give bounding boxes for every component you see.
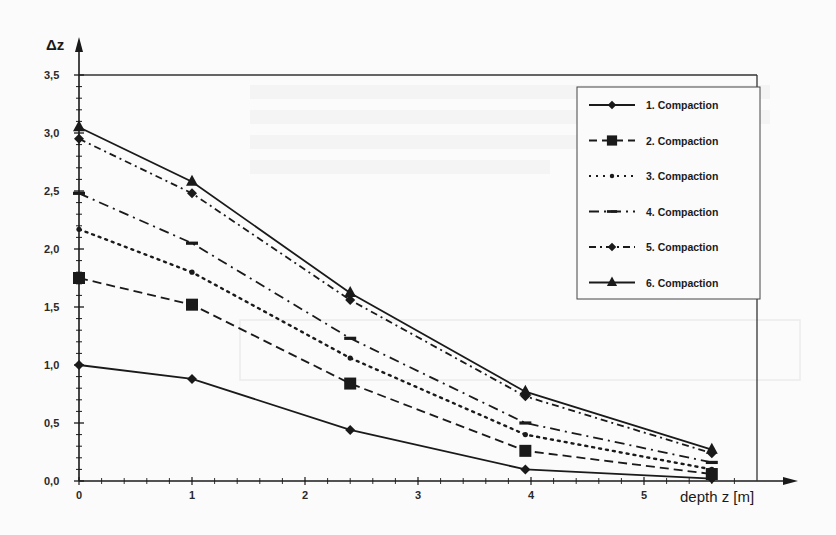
y-tick-label: 3,0 bbox=[44, 127, 59, 139]
y-tick-label: 0,5 bbox=[44, 417, 59, 429]
legend: 1. Compaction2. Compaction3. Compaction4… bbox=[577, 87, 760, 299]
y-axis-arrow-icon bbox=[75, 37, 83, 52]
x-tick-label: 0 bbox=[76, 489, 82, 501]
x-axis-arrow-icon bbox=[783, 477, 798, 485]
legend-label: 5. Compaction bbox=[646, 241, 718, 253]
x-tick-label: 3 bbox=[415, 489, 421, 501]
y-tick-label: 1,5 bbox=[44, 301, 59, 313]
legend-label: 4. Compaction bbox=[646, 206, 718, 218]
compaction-depth-chart: 0,00,51,01,52,02,53,03,5 012345 Δz depth… bbox=[0, 0, 836, 535]
x-tick-label: 2 bbox=[302, 489, 308, 501]
x-tick-label: 4 bbox=[528, 489, 535, 501]
y-axis-label: Δz bbox=[46, 36, 64, 53]
y-tick-label: 2,0 bbox=[44, 243, 59, 255]
legend-label: 6. Compaction bbox=[646, 277, 718, 289]
legend-item: 2. Compaction bbox=[589, 135, 718, 147]
x-tick-label: 5 bbox=[641, 489, 647, 501]
legend-label: 3. Compaction bbox=[646, 170, 718, 182]
x-axis-label: depth z [m] bbox=[680, 488, 754, 505]
legend-label: 1. Compaction bbox=[646, 99, 718, 111]
legend-label: 2. Compaction bbox=[646, 135, 718, 147]
y-tick-label: 3,5 bbox=[44, 69, 59, 81]
y-axis bbox=[75, 37, 83, 481]
y-tick-label: 0,0 bbox=[44, 475, 59, 487]
y-tick-label: 1,0 bbox=[44, 359, 59, 371]
x-tick-label: 1 bbox=[189, 489, 195, 501]
y-tick-label: 2,5 bbox=[44, 185, 59, 197]
